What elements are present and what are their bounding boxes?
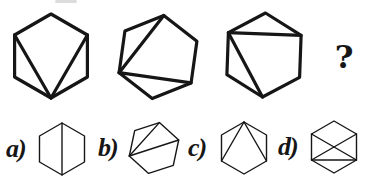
option-d-hexagon [306,117,362,177]
question-mark: ? [330,38,358,78]
option-d-label: d) [278,116,306,178]
option-b[interactable]: b) [98,117,182,179]
sequence-hexagon-2 [117,11,199,103]
option-a-hexagon [34,119,90,179]
option-c-hexagon [216,118,272,178]
option-c[interactable]: c) [188,117,272,179]
option-b-label: b) [98,117,126,179]
option-d[interactable]: d) [278,116,362,178]
option-a-label: a) [6,118,34,180]
sequence-hexagon-3 [223,9,305,101]
option-c-label: c) [188,117,216,179]
option-a[interactable]: a) [6,118,90,180]
option-b-hexagon [126,118,182,178]
scan-artifact [55,0,77,3]
puzzle: ? a) b) c) d) [0,0,368,183]
sequence-hexagon-1 [10,10,92,102]
